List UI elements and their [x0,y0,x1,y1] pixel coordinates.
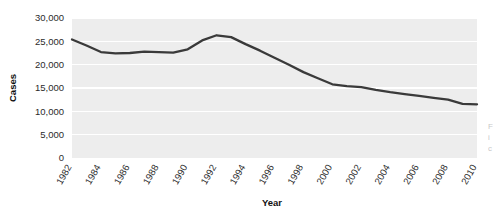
x-tick-label: 2002 [343,163,363,187]
x-tick-label: 1988 [140,163,160,187]
line-chart[interactable]: 30,00025,00020,00015,00010,0005,0000 198… [0,0,502,220]
x-tick-label: 1998 [285,163,305,187]
y-axis-tick-labels: 30,00025,00020,00015,00010,0005,0000 [35,12,64,163]
y-tick-label: 20,000 [35,59,64,70]
clipped-caption-fragment: F i c [488,121,502,155]
fragment-line-3: c [488,143,502,154]
x-tick-label: 1982 [54,163,74,187]
chart-figure: 30,00025,00020,00015,00010,0005,0000 198… [0,0,502,220]
x-axis-tick-labels: 1982198419861988199019921994199619982000… [54,162,479,186]
x-tick-label: 1990 [169,163,189,187]
x-tick-label: 2010 [459,163,479,187]
y-tick-label: 25,000 [35,36,64,47]
x-tick-label: 2008 [430,163,450,187]
x-tick-label: 2000 [314,163,334,187]
x-tick-label: 1996 [256,163,276,187]
fragment-line-2: i [488,132,502,143]
y-tick-label: 0 [59,152,64,163]
y-tick-label: 5,000 [40,129,64,140]
y-axis-title: Cases [7,74,18,102]
x-tick-label: 2004 [372,163,392,187]
x-tick-label: 1984 [83,163,103,187]
x-tick-label: 2006 [401,163,421,187]
y-tick-label: 15,000 [35,82,64,93]
y-tick-label: 10,000 [35,106,64,117]
fragment-line-1: F [488,121,502,132]
x-tick-label: 1992 [198,163,218,187]
x-tick-label: 1986 [111,163,131,187]
x-axis-title: Year [262,197,282,208]
x-tick-label: 1994 [227,162,247,186]
y-tick-label: 30,000 [35,12,64,23]
